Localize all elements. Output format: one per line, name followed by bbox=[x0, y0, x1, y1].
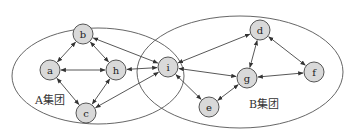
node-c: c bbox=[76, 103, 96, 123]
edge-e-g bbox=[218, 85, 239, 101]
node-h: h bbox=[106, 60, 126, 80]
node-a-label: a bbox=[47, 65, 53, 76]
node-g: g bbox=[237, 68, 257, 88]
edge-i-e bbox=[176, 75, 201, 100]
edge-d-f bbox=[269, 37, 306, 65]
group-a-label: A集团 bbox=[34, 93, 65, 107]
node-b: b bbox=[73, 24, 93, 44]
node-i: i bbox=[158, 57, 178, 77]
nodes: abhcidgfe bbox=[40, 20, 324, 123]
edge-h-i bbox=[127, 68, 157, 70]
node-e: e bbox=[199, 97, 219, 117]
group-ellipses bbox=[12, 16, 343, 128]
edge-b-h bbox=[90, 42, 108, 62]
group-a-ellipse bbox=[12, 28, 184, 124]
node-a: a bbox=[40, 60, 60, 80]
edge-a-b bbox=[57, 42, 75, 62]
edge-i-d bbox=[178, 34, 250, 63]
node-e-label: e bbox=[206, 102, 212, 113]
edge-g-f bbox=[258, 73, 303, 77]
edge-b-i bbox=[93, 38, 157, 63]
group-labels: A集团B集团 bbox=[34, 93, 279, 111]
diagram-canvas: abhcidgfe A集团B集团 bbox=[0, 0, 350, 136]
node-g-label: g bbox=[244, 73, 251, 84]
node-d-label: d bbox=[257, 25, 264, 36]
node-i-label: i bbox=[166, 62, 169, 73]
edge-c-i bbox=[96, 72, 159, 107]
node-c-label: c bbox=[83, 108, 89, 119]
edges bbox=[57, 34, 305, 108]
node-d: d bbox=[250, 20, 270, 40]
node-b-label: b bbox=[80, 29, 86, 40]
node-f: f bbox=[304, 62, 324, 82]
edge-d-g bbox=[250, 41, 257, 68]
edge-i-g bbox=[179, 69, 236, 77]
node-h-label: h bbox=[113, 65, 120, 76]
edge-c-h bbox=[92, 79, 109, 104]
group-b-label: B集团 bbox=[249, 97, 279, 111]
